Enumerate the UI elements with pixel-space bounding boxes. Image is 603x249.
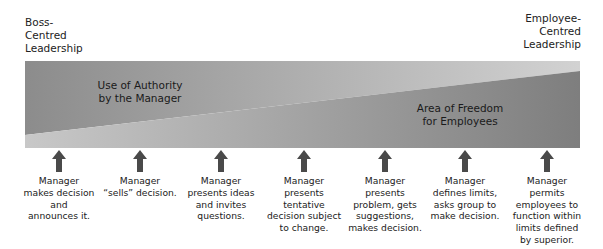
freedom-region-label: Area of Freedom for Employees bbox=[405, 102, 515, 128]
step-description: Manager makes decision and announces it. bbox=[14, 175, 104, 222]
up-arrow-icon bbox=[52, 150, 66, 172]
behaviour-step-7: Manager permits employees to function wi… bbox=[502, 150, 592, 246]
up-arrow-icon bbox=[378, 150, 392, 172]
up-arrow-icon bbox=[297, 150, 311, 172]
step-description: Manager defines limits, asks group to ma… bbox=[420, 175, 510, 222]
behaviour-step-1: Manager makes decision and announces it. bbox=[14, 150, 104, 222]
step-description: Manager presents tentative decision subj… bbox=[259, 175, 349, 234]
behaviour-step-2: Manager “sells” decision. bbox=[95, 150, 185, 199]
up-arrow-icon bbox=[133, 150, 147, 172]
behaviour-step-3: Manager presents ideas and invites quest… bbox=[176, 150, 266, 222]
up-arrow-icon bbox=[540, 150, 554, 172]
behaviour-step-4: Manager presents tentative decision subj… bbox=[259, 150, 349, 234]
behaviour-step-6: Manager defines limits, asks group to ma… bbox=[420, 150, 510, 222]
step-description: Manager presents ideas and invites quest… bbox=[176, 175, 266, 222]
up-arrow-icon bbox=[214, 150, 228, 172]
step-description: Manager “sells” decision. bbox=[95, 175, 185, 199]
authority-region-label: Use of Authority by the Manager bbox=[95, 79, 185, 105]
behaviour-step-5: Manager presents problem, gets suggestio… bbox=[340, 150, 430, 234]
up-arrow-icon bbox=[458, 150, 472, 172]
step-description: Manager presents problem, gets suggestio… bbox=[340, 175, 430, 234]
step-description: Manager permits employees to function wi… bbox=[502, 175, 592, 246]
